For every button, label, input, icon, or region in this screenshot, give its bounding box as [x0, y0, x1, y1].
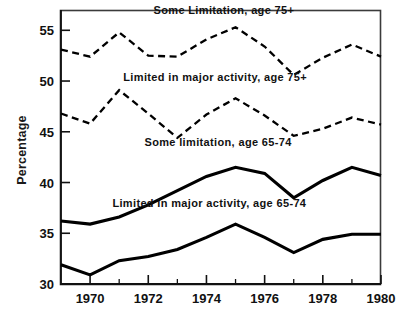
x-tick-label-1978: 1978	[308, 291, 337, 306]
y-tick-label-30: 30	[40, 277, 54, 292]
x-tick-label-1976: 1976	[250, 291, 279, 306]
x-tick-label-1980: 1980	[367, 291, 396, 306]
x-axis-ticks	[90, 275, 381, 284]
y-tick-label-45: 45	[40, 125, 54, 140]
x-tick-label-1970: 1970	[76, 291, 105, 306]
y-tick-label-40: 40	[40, 176, 54, 191]
line-chart-plot: 303540455055 197019721974197619781980 So…	[0, 0, 399, 309]
series-annotation-1: Limited in major activity, age 75+	[123, 71, 307, 83]
series-line-2	[61, 167, 381, 224]
series-line-0	[61, 27, 381, 75]
series-annotation-0: Some Limitation, age 75+	[154, 4, 295, 16]
series-annotation-3: Limited in major activity, age 65-74	[112, 197, 306, 209]
series-line-3	[61, 224, 381, 275]
chart-figure: Percentage 303540455055 1970197219741976…	[0, 0, 399, 309]
y-tick-label-35: 35	[40, 226, 54, 241]
data-series-group	[61, 27, 381, 275]
series-annotation-2: Some limitation, age 65-74	[144, 136, 292, 148]
y-tick-label-50: 50	[40, 74, 54, 89]
x-tick-label-1974: 1974	[192, 291, 222, 306]
x-tick-label-1972: 1972	[134, 291, 163, 306]
series-line-1	[61, 90, 381, 138]
y-axis-tick-labels: 303540455055	[40, 23, 54, 292]
y-axis-ticks	[61, 30, 70, 284]
y-tick-label-55: 55	[40, 23, 54, 38]
x-axis-tick-labels: 197019721974197619781980	[76, 291, 396, 306]
series-label-group: Some Limitation, age 75+Limited in major…	[112, 4, 307, 209]
